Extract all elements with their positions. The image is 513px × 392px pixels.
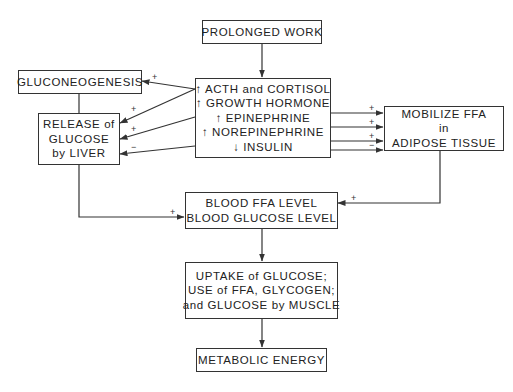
sign-to-mobilize-1: +: [369, 104, 374, 113]
node-label-line-3: by LIVER: [52, 146, 105, 161]
hormone-growth-hormone: ↑ GROWTH HORMONE: [196, 96, 330, 111]
gluconeogenesis-node: GLUCONEOGENESIS: [18, 70, 142, 94]
sign-release-to-blood: +: [170, 208, 175, 217]
sign-to-mobilize-4: −: [369, 141, 374, 150]
sign-to-release-2: +: [131, 125, 136, 134]
sign-mobilize-to-blood: +: [351, 194, 356, 203]
metabolic-energy-node: METABOLIC ENERGY: [196, 348, 327, 372]
node-label-line-2: USE of FFA, GLYCOGEN;: [188, 283, 335, 298]
node-label-line-2: in: [439, 121, 449, 136]
sign-to-gluconeogenesis: +: [152, 73, 157, 82]
node-label-line-3: ADIPOSE TISSUE: [392, 136, 496, 151]
node-label-line-1: RELEASE of: [43, 117, 115, 132]
hormone-epinephrine: ↑ EPINEPHRINE: [216, 111, 311, 126]
node-label-line-2: GLUCOSE: [49, 132, 109, 147]
release-glucose-node: RELEASE of GLUCOSE by LIVER: [38, 113, 120, 165]
node-label-line-2: BLOOD GLUCOSE LEVEL: [186, 211, 336, 226]
sign-to-mobilize-2: +: [369, 118, 374, 127]
hormone-acth-cortisol: ↑ ACTH and CORTISOL: [195, 82, 330, 97]
node-label-line-1: BLOOD FFA LEVEL: [206, 196, 318, 211]
uptake-node: UPTAKE of GLUCOSE; USE of FFA, GLYCOGEN;…: [185, 262, 338, 319]
node-label-line-3: and GLUCOSE by MUSCLE: [183, 298, 341, 313]
node-label: GLUCONEOGENESIS: [17, 75, 143, 90]
hormones-node: ↑ ACTH and CORTISOL ↑ GROWTH HORMONE ↑ E…: [195, 78, 331, 158]
prolonged-work-node: PROLONGED WORK: [202, 20, 322, 44]
node-label-line-1: MOBILIZE FFA: [401, 107, 486, 122]
hormone-insulin: ↓ INSULIN: [233, 140, 293, 155]
sign-to-release-3: −: [131, 143, 136, 152]
mobilize-ffa-node: MOBILIZE FFA in ADIPOSE TISSUE: [384, 106, 504, 151]
node-label: METABOLIC ENERGY: [198, 353, 325, 368]
sign-to-release-1: +: [131, 105, 136, 114]
node-label: PROLONGED WORK: [202, 25, 323, 40]
blood-levels-node: BLOOD FFA LEVEL BLOOD GLUCOSE LEVEL: [185, 192, 338, 229]
hormone-norepinephrine: ↑ NOREPINEPHRINE: [202, 125, 324, 140]
node-label-line-1: UPTAKE of GLUCOSE;: [196, 269, 327, 284]
